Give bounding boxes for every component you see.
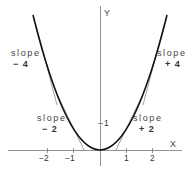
slope-value-pos4: + 4 <box>165 59 181 69</box>
slope-label-pos4: slope <box>157 48 187 58</box>
slope-value-pos2: + 2 <box>139 124 155 134</box>
slope-label-neg4: slope <box>11 48 41 58</box>
slope-value-neg4: − 4 <box>13 59 29 69</box>
y-tick-label-1: 1 <box>104 119 109 128</box>
y-axis-label: Y <box>104 8 110 18</box>
slope-label-neg2: slope <box>37 113 67 123</box>
parabola-diagram <box>0 0 192 171</box>
x-tick-label-neg1: −1 <box>65 154 75 163</box>
slope-label-pos2: slope <box>133 113 163 123</box>
x-tick-label-1: 1 <box>124 154 129 163</box>
x-axis-label: X <box>170 139 176 149</box>
slope-value-neg2: − 2 <box>42 124 58 134</box>
x-tick-label-neg2: −2 <box>39 154 49 163</box>
x-tick-label-2: 2 <box>150 154 155 163</box>
